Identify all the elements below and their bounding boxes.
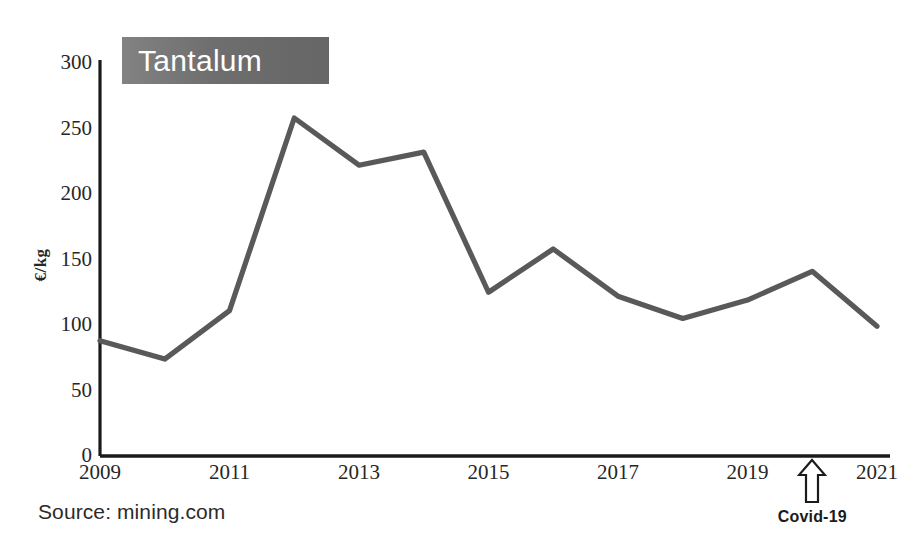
source-note: Source: mining.com [38,500,225,524]
x-axis-tick-label: 2015 [444,462,534,483]
chart-title-text: Tantalum [138,46,262,76]
chart-title-badge: Tantalum [122,37,329,84]
x-axis-tick-label: 2021 [832,462,916,483]
x-axis-tick-label: 2019 [703,462,793,483]
up-arrow-icon [797,458,827,504]
x-axis-tick-label: 2011 [185,462,275,483]
x-axis-tick-label: 2009 [55,462,145,483]
x-axis-tick-label: 2013 [314,462,404,483]
x-axis-tick-label: 2017 [573,462,663,483]
covid-annotation-label: Covid-19 [732,508,892,526]
chart-figure: Tantalum 300250200150100500 €/kg 2009201… [0,0,916,555]
